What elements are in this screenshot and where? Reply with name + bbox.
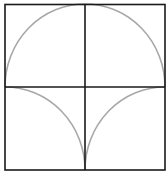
background <box>0 0 167 172</box>
geometry-diagram <box>0 0 167 172</box>
